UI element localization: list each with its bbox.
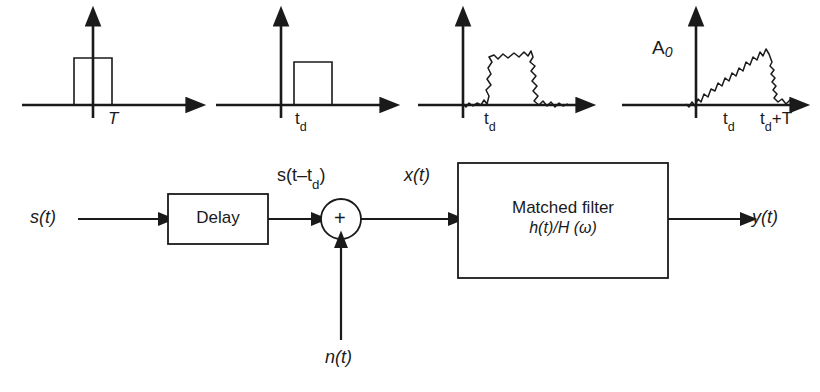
delay-output-label-s: s	[277, 165, 286, 185]
summer-plus-symbol: +	[334, 208, 346, 228]
block-diagram-canvas	[78, 163, 742, 340]
plot3-label-td: td	[484, 110, 496, 131]
plot2-label-td: td	[295, 110, 307, 131]
plot4-label-tdT-plusT: +T	[772, 109, 792, 128]
plot3-label-td-d: d	[489, 120, 496, 134]
plot2-label-td-d: d	[300, 120, 307, 134]
delay-output-label-minus: –	[297, 165, 307, 185]
plot1-label-T: T	[108, 110, 118, 127]
figure-canvas	[0, 0, 820, 392]
delay-output-label-paren-close: )	[319, 165, 325, 185]
plot4-label-A: A	[652, 37, 665, 58]
delay-block-label: Delay	[168, 207, 268, 228]
delay-block-label-text: Delay	[196, 208, 239, 227]
delay-output-label: s(t–td)	[277, 166, 325, 188]
plot4-noisy-triangle-waveform	[686, 49, 793, 107]
matched-filter-figure: T td td A0 td td+T s(t) Delay s(t–td) + …	[0, 0, 820, 392]
plot-noisy-delayed-pulse	[418, 24, 578, 118]
noise-input-label: n(t)	[325, 348, 352, 366]
matched-filter-line2-omega: (ω)	[569, 219, 597, 236]
plot4-label-zero: 0	[665, 44, 673, 60]
matched-filter-line2-H: H	[558, 219, 570, 236]
matched-filter-block-label: Matched filter h(t)/H (ω)	[458, 197, 668, 238]
plot2-pulse-waveform	[294, 62, 332, 105]
output-signal-label: y(t)	[752, 208, 778, 226]
plot3-noisy-pulse-waveform	[463, 51, 568, 107]
matched-filter-line2-t: (t)/	[538, 219, 558, 236]
delay-output-label-td-d: d	[312, 177, 319, 192]
plot-matched-filter-output	[622, 24, 793, 118]
plot-transmitted-pulse	[22, 24, 188, 118]
sum-output-label: x(t)	[404, 166, 430, 184]
plot4-label-td-plus-T: td+T	[760, 110, 792, 131]
plot4-label-amplitude: A0	[652, 38, 673, 57]
input-signal-label: s(t)	[30, 208, 56, 226]
plot4-label-td-d: d	[728, 120, 735, 134]
plot-delayed-pulse	[216, 24, 382, 118]
matched-filter-line2: h(t)/H (ω)	[458, 218, 668, 238]
plot4-label-td: td	[723, 110, 735, 131]
matched-filter-line1: Matched filter	[512, 198, 614, 217]
plot4-label-tdT-d: d	[765, 120, 772, 134]
matched-filter-line2-h: h	[529, 219, 538, 236]
